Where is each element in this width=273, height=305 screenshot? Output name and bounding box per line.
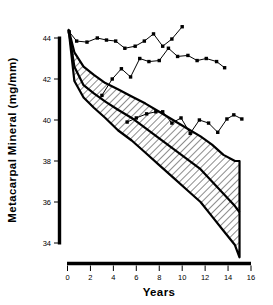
y-axis-ticks: 343638404244 <box>43 34 59 248</box>
y-tick-label: 38 <box>43 157 51 166</box>
middle-marker-series-marker <box>215 60 218 63</box>
middle-marker-series-marker <box>186 54 189 57</box>
metacarpal-mineral-chart: 343638404244 0246810121416 Metacarpal Mi… <box>0 0 273 305</box>
upper-marker-series-marker <box>161 45 164 48</box>
upper-marker-series-marker <box>96 36 99 39</box>
plot-area <box>69 30 240 258</box>
x-axis-title: Years <box>143 286 176 298</box>
lower-marker-series-marker <box>135 116 138 119</box>
x-tick-label: 16 <box>247 273 255 282</box>
lower-marker-series-marker <box>179 116 182 119</box>
lower-marker-series-marker <box>170 121 173 124</box>
upper-marker-series-marker <box>114 39 117 42</box>
middle-marker-series-marker <box>176 55 179 58</box>
x-tick-label: 12 <box>201 273 209 282</box>
y-tick-label: 40 <box>43 116 51 125</box>
middle-marker-series-marker <box>147 60 150 63</box>
lower-marker-series-marker <box>161 110 164 113</box>
y-tick-label: 34 <box>43 239 51 248</box>
middle-marker-series-marker <box>223 66 226 69</box>
y-axis: 343638404244 <box>43 34 60 248</box>
middle-marker-series-marker <box>195 59 198 62</box>
upper-marker-series-marker <box>105 38 108 41</box>
middle-marker-series-marker <box>129 75 132 78</box>
upper-marker-series-marker <box>180 25 183 28</box>
middle-marker-series-marker <box>111 77 114 80</box>
middle-marker-series-marker <box>138 57 141 60</box>
middle-marker-series-marker <box>167 47 170 50</box>
upper-marker-series-marker <box>68 30 71 33</box>
x-tick-label: 14 <box>224 273 232 282</box>
x-tick-label: 4 <box>111 273 115 282</box>
y-axis-title: Metacarpal Mineral (mg/mm) <box>6 57 18 223</box>
middle-marker-series-marker <box>100 94 103 97</box>
lower-marker-series-marker <box>189 132 192 135</box>
y-tick-label: 44 <box>43 34 51 43</box>
x-tick-label: 2 <box>88 273 92 282</box>
upper-marker-series-marker <box>143 39 146 42</box>
figure-container: 343638404244 0246810121416 Metacarpal Mi… <box>0 0 273 305</box>
x-tick-label: 6 <box>134 273 138 282</box>
upper-marker-series-marker <box>123 47 126 50</box>
y-tick-label: 36 <box>43 198 51 207</box>
x-axis-ticks: 0246810121416 <box>65 266 255 283</box>
middle-marker-series-marker <box>120 67 123 70</box>
lower-marker-series-marker <box>207 121 210 124</box>
upper-marker-series-marker <box>133 45 136 48</box>
x-tick-label: 10 <box>178 273 186 282</box>
lower-marker-series-marker <box>225 117 228 120</box>
x-tick-label: 0 <box>65 273 69 282</box>
middle-marker-series-marker <box>158 59 161 62</box>
upper-marker-series-line <box>69 27 182 49</box>
lower-marker-series-marker <box>198 118 201 121</box>
x-axis: 0246810121416 <box>65 264 255 283</box>
middle-marker-series-marker <box>205 57 208 60</box>
lower-marker-series-marker <box>125 120 128 123</box>
lower-marker-series-marker <box>240 117 243 120</box>
y-tick-label: 42 <box>43 75 51 84</box>
x-tick-label: 8 <box>157 273 161 282</box>
lower-marker-series-marker <box>216 131 219 134</box>
lower-marker-series-marker <box>154 110 157 113</box>
upper-marker-series-marker <box>85 40 88 43</box>
middle-marker-series-line <box>102 48 225 95</box>
upper-marker-series-marker <box>170 37 173 40</box>
lower-marker-series-marker <box>232 113 235 116</box>
hatched-band-fill <box>69 30 240 258</box>
lower-marker-series-marker <box>145 112 148 115</box>
upper-marker-series-marker <box>152 32 155 35</box>
upper-marker-series-marker <box>75 39 78 42</box>
